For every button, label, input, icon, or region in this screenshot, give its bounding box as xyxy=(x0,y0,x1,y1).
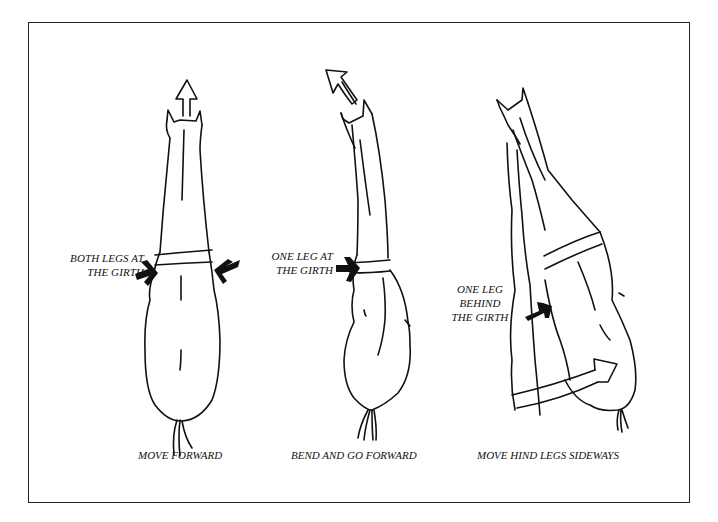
annotation-line: THE GIRTH xyxy=(448,310,512,324)
annotation-one-leg-behind: ONE LEG BEHIND THE GIRTH xyxy=(448,282,512,324)
annotation-line: ONE LEG AT xyxy=(258,249,333,263)
horse-straight-figure xyxy=(135,80,240,456)
right-leg-arrow-icon xyxy=(214,259,240,284)
sideways-arrow-icon xyxy=(512,359,617,408)
caption-move-forward: MOVE FORWARD xyxy=(138,449,222,461)
annotation-line: BOTH LEGS AT xyxy=(60,251,144,265)
annotation-line: THE GIRTH xyxy=(60,265,144,279)
annotation-line: ONE LEG xyxy=(448,282,512,296)
horse-bend-figure xyxy=(326,70,410,440)
bend-arrow-icon xyxy=(326,70,357,104)
annotation-one-leg-at: ONE LEG AT THE GIRTH xyxy=(258,249,333,277)
annotation-both-legs: BOTH LEGS AT THE GIRTH xyxy=(60,251,144,279)
horse-sideways-figure xyxy=(497,88,636,432)
forward-arrow-icon xyxy=(176,80,197,116)
annotation-line: THE GIRTH xyxy=(258,263,333,277)
leg-arrow-icon xyxy=(525,302,552,321)
leg-arrow-icon xyxy=(336,257,360,282)
caption-hind-sideways: MOVE HIND LEGS SIDEWAYS xyxy=(477,449,619,461)
annotation-line: BEHIND xyxy=(448,296,512,310)
caption-bend-forward: BEND AND GO FORWARD xyxy=(291,449,417,461)
